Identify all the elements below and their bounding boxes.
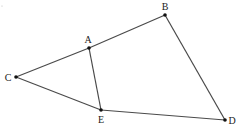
segment-ca (16, 48, 89, 77)
point-a (87, 46, 91, 50)
segment-de (101, 110, 225, 120)
label-a: A (84, 34, 92, 45)
segment-ec (16, 77, 101, 110)
point-b (163, 13, 167, 17)
segments (16, 15, 225, 120)
segment-ae (89, 48, 101, 110)
point-c (14, 75, 18, 79)
label-b: B (162, 1, 169, 12)
label-e: E (98, 114, 104, 125)
point-e (99, 108, 103, 112)
point-d (223, 118, 227, 122)
segment-bd (165, 15, 225, 120)
label-c: C (5, 72, 12, 83)
labels: A B C D E (5, 1, 236, 126)
label-d: D (228, 115, 235, 126)
stray-mark (1, 5, 2, 6)
geometry-diagram: A B C D E (0, 0, 236, 133)
segment-ab (89, 15, 165, 48)
